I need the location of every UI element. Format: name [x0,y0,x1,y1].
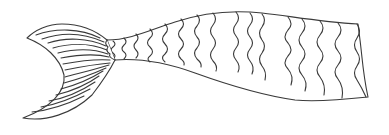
drawing-canvas [0,0,389,135]
tail-body [107,12,368,101]
tail-fin [23,24,115,119]
tail-body-outline [107,12,368,101]
mermaid-tail-illustration [0,0,389,135]
